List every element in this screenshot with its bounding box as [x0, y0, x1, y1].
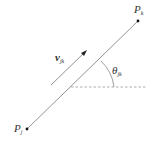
- diagram-canvas: [0, 0, 161, 150]
- label-angle-sub: jk: [117, 71, 121, 77]
- label-velocity: vjk: [55, 52, 64, 64]
- label-pj-main: P: [14, 122, 21, 134]
- label-velocity-sub: jk: [60, 58, 64, 64]
- label-pk: Pk: [134, 4, 143, 16]
- label-pj-sub: j: [21, 129, 23, 135]
- label-pk-sub: k: [141, 10, 144, 16]
- label-angle: θjk: [112, 65, 122, 77]
- label-pk-main: P: [134, 3, 141, 15]
- point-pk-dot: [137, 20, 140, 23]
- label-pj: Pj: [14, 123, 22, 135]
- point-pj-dot: [26, 128, 29, 131]
